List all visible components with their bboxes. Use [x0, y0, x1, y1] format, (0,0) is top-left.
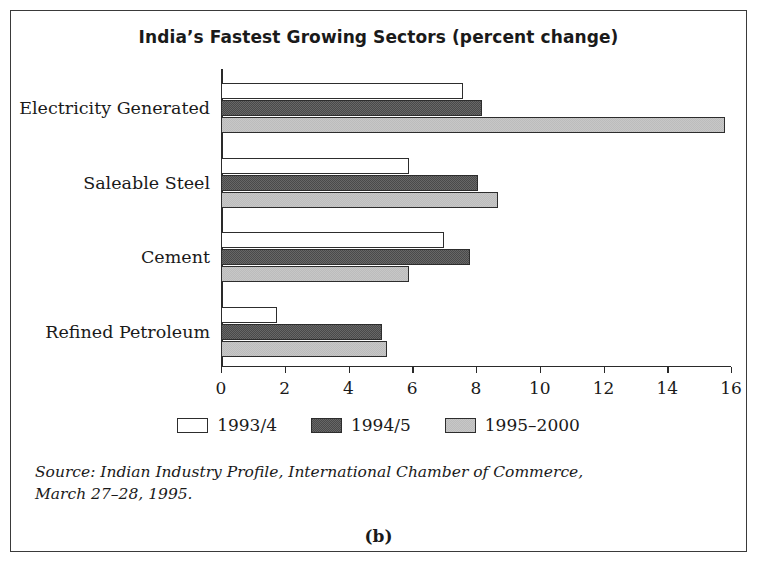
bar-group: Refined Petroleum: [221, 307, 731, 357]
x-tick-label: 16: [711, 378, 751, 398]
x-tick-label: 14: [647, 378, 687, 398]
legend-label: 1993/4: [217, 415, 277, 435]
chart-title: India’s Fastest Growing Sectors (percent…: [11, 27, 746, 47]
bar-group: Saleable Steel: [221, 158, 731, 208]
x-tick-mark: [667, 367, 668, 373]
legend-swatch: [177, 418, 208, 433]
bar: [221, 192, 498, 208]
figure-caption: (b): [11, 526, 746, 546]
legend-entry: 1994/5: [311, 415, 411, 435]
bar: [221, 249, 470, 265]
source-note: Source: Indian Industry Profile, Interna…: [35, 461, 675, 506]
x-tick-label: 2: [265, 378, 305, 398]
category-label: Refined Petroleum: [45, 322, 210, 342]
bar: [221, 175, 478, 191]
legend-label: 1994/5: [351, 415, 411, 435]
x-tick-label: 6: [392, 378, 432, 398]
bar: [221, 341, 387, 357]
x-tick-label: 0: [201, 378, 241, 398]
x-tick-label: 10: [520, 378, 560, 398]
legend-swatch: [311, 418, 342, 433]
x-tick-label: 12: [584, 378, 624, 398]
category-label: Saleable Steel: [83, 173, 210, 193]
x-tick-label: 4: [329, 378, 369, 398]
x-tick-mark: [349, 367, 350, 373]
chart-legend: 1993/41994/51995–2000: [11, 415, 746, 435]
bar: [221, 158, 409, 174]
bar: [221, 232, 444, 248]
source-line-2: March 27–28, 1995.: [35, 483, 675, 505]
bar: [221, 324, 382, 340]
figure-frame: India’s Fastest Growing Sectors (percent…: [10, 10, 747, 552]
bar: [221, 117, 725, 133]
source-line-1: Source: Indian Industry Profile, Interna…: [35, 461, 675, 483]
bar: [221, 307, 277, 323]
bar: [221, 83, 463, 99]
x-tick-mark: [604, 367, 605, 373]
x-tick-mark: [221, 367, 222, 373]
legend-entry: 1995–2000: [445, 415, 580, 435]
bar: [221, 100, 482, 116]
x-tick-mark: [731, 367, 732, 373]
category-label: Electricity Generated: [19, 98, 210, 118]
bar: [221, 266, 409, 282]
bar-group: Cement: [221, 232, 731, 282]
x-tick-mark: [476, 367, 477, 373]
plot-area: 0246810121416 Electricity GeneratedSalea…: [221, 69, 731, 367]
x-tick-label: 8: [456, 378, 496, 398]
x-tick-mark: [412, 367, 413, 373]
legend-label: 1995–2000: [485, 415, 580, 435]
category-label: Cement: [141, 247, 210, 267]
x-tick-mark: [540, 367, 541, 373]
x-tick-mark: [285, 367, 286, 373]
bar-group: Electricity Generated: [221, 83, 731, 133]
legend-swatch: [445, 418, 476, 433]
legend-entry: 1993/4: [177, 415, 277, 435]
